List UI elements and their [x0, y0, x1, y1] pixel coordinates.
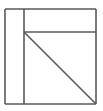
geometric-figure — [0, 0, 103, 111]
figure-canvas — [0, 0, 103, 111]
